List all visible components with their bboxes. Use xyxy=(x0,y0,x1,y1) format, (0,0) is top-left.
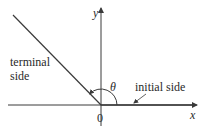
initial-side-label: initial side xyxy=(135,81,185,93)
x-axis-label: x xyxy=(190,109,195,121)
terminal-side-label: terminal side xyxy=(10,55,50,83)
terminal-side-label-line2: side xyxy=(10,69,50,83)
terminal-side-label-line1: terminal xyxy=(10,55,50,69)
initial-side-pointer xyxy=(134,94,146,103)
y-axis-label: y xyxy=(93,7,98,19)
origin-label: 0 xyxy=(97,112,103,124)
theta-label: θ xyxy=(110,81,116,93)
